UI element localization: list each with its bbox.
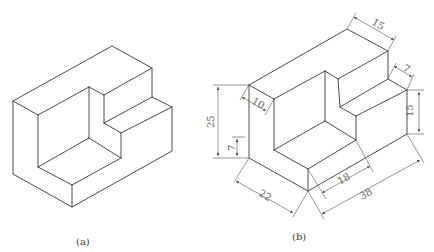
dim-step-depth: 7 [401, 62, 412, 75]
figure-b [249, 29, 407, 191]
dim-base-height: 7 [226, 145, 237, 151]
dim-wall-thickness: 10 [250, 95, 267, 111]
dim-top-depth: 15 [370, 16, 387, 32]
caption-a: (a) [76, 236, 90, 247]
dim-right-height: 15 [404, 104, 415, 117]
caption-b: (b) [292, 231, 306, 242]
dim-total-height: 25 [205, 115, 216, 128]
drawing-canvas: 15 7 15 25 7 10 22 18 [0, 0, 434, 252]
figure-a [13, 46, 172, 207]
dimensions-b: 15 7 15 25 7 10 22 18 [205, 13, 424, 219]
dim-total-length: 38 [358, 186, 375, 202]
